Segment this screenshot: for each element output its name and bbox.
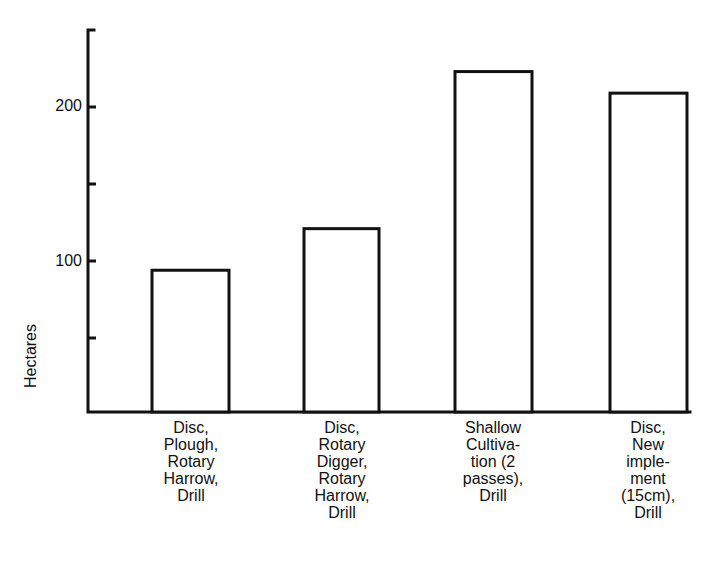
- y-tick-label-100: 100: [42, 252, 82, 270]
- bar-2: [304, 229, 379, 412]
- x-category-label-3: Shallow Cultiva- tion (2 passes), Drill: [438, 419, 548, 504]
- bar-1: [152, 270, 229, 412]
- x-category-label-1: Disc, Plough, Rotary Harrow, Drill: [136, 419, 246, 504]
- bar-4: [610, 93, 687, 412]
- x-category-label-4: Disc, New imple- ment (15cm), Drill: [593, 419, 703, 521]
- x-category-label-2: Disc, Rotary Digger, Rotary Harrow, Dril…: [287, 419, 397, 521]
- bar-3: [455, 72, 532, 412]
- y-axis-label: Hectares: [22, 324, 40, 388]
- y-tick-label-200: 200: [42, 97, 82, 115]
